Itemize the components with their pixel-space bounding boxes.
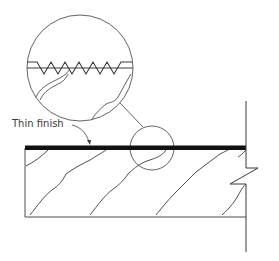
aggregate-line	[156, 150, 228, 215]
aggregate-line	[36, 69, 70, 97]
callout-leader	[120, 103, 143, 127]
label-arrow	[72, 125, 89, 142]
arrow-head-icon	[87, 140, 91, 145]
magnified-detail	[27, 15, 133, 121]
thin-finish-diagram	[0, 0, 279, 261]
wall-line-with-break	[230, 101, 258, 252]
aggregate-line	[26, 150, 48, 166]
aggregate-line	[90, 150, 166, 215]
aggregate-line	[30, 150, 106, 215]
thin-finish-layer	[25, 146, 246, 151]
aggregate-line	[222, 184, 246, 215]
thin-finish-label: Thin finish	[12, 118, 64, 129]
aggregate-line	[238, 150, 246, 157]
slab-section	[25, 148, 246, 217]
